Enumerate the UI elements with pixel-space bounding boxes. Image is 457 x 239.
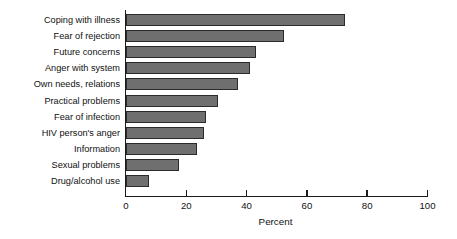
category-label: Fear of rejection — [0, 30, 120, 42]
bar — [126, 111, 206, 123]
bar-row — [126, 78, 428, 90]
bar — [126, 143, 197, 155]
category-label: HIV person's anger — [0, 127, 120, 139]
x-axis-tick-label: 80 — [362, 200, 373, 211]
bar-row — [126, 62, 428, 74]
category-label: Fear of infection — [0, 111, 120, 123]
category-label: Coping with illness — [0, 14, 120, 26]
category-label: Drug/alcohol use — [0, 175, 120, 187]
x-axis-tick — [306, 190, 308, 196]
bar-row — [126, 159, 428, 171]
x-axis-tick — [246, 190, 248, 196]
bar-row — [126, 175, 428, 187]
category-label: Own needs, relations — [0, 78, 120, 90]
x-axis-tick — [186, 190, 188, 196]
x-axis-tick — [427, 190, 429, 196]
bar-row — [126, 143, 428, 155]
bar — [126, 46, 256, 58]
bar-row — [126, 14, 428, 26]
x-axis-title-text: Percent — [259, 216, 293, 227]
bar — [126, 30, 284, 42]
category-label: Information — [0, 143, 120, 155]
bar-row — [126, 111, 428, 123]
plot-area — [126, 10, 428, 196]
x-axis-tick — [366, 190, 368, 196]
category-label: Anger with system — [0, 62, 120, 74]
bar-row — [126, 46, 428, 58]
bar — [126, 78, 238, 90]
x-axis-tick-label: 0 — [123, 200, 128, 211]
bar-row — [126, 95, 428, 107]
bar-row — [126, 30, 428, 42]
bar — [126, 14, 345, 26]
x-axis-title: Percent — [0, 216, 457, 227]
bar — [126, 175, 149, 187]
x-axis-tick-label: 60 — [302, 200, 313, 211]
bar — [126, 159, 179, 171]
x-axis-tick-label: 100 — [419, 200, 435, 211]
bar — [126, 95, 218, 107]
bar-row — [126, 127, 428, 139]
x-axis-tick-label: 20 — [181, 200, 192, 211]
bar-chart: Coping with illnessFear of rejectionFutu… — [0, 0, 457, 239]
bar — [126, 127, 204, 139]
category-label: Sexual problems — [0, 159, 120, 171]
category-label: Practical problems — [0, 95, 120, 107]
x-axis-tick-label: 40 — [241, 200, 252, 211]
category-label: Future concerns — [0, 46, 120, 58]
bar — [126, 62, 250, 74]
